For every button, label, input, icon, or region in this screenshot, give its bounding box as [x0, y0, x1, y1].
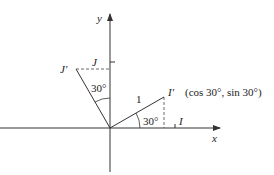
J-label: J — [92, 56, 98, 68]
J-prime-label: J′ — [60, 63, 68, 75]
length-label: 1 — [136, 93, 142, 105]
angle-arc-I — [136, 113, 140, 128]
I-prime-label: I′ — [167, 86, 175, 98]
x-axis-label: x — [211, 132, 217, 144]
rotation-diagram: y x J J′ 30° 1 I′ (cos 30°, sin 30°) 30°… — [0, 0, 274, 175]
y-axis-label: y — [96, 12, 102, 24]
I-label: I — [178, 115, 184, 127]
I-prime-coordinates: (cos 30°, sin 30°) — [185, 86, 262, 99]
angle-arc-J — [95, 98, 110, 102]
angle-J-label: 30° — [91, 82, 106, 94]
angle-I-label: 30° — [143, 115, 158, 127]
